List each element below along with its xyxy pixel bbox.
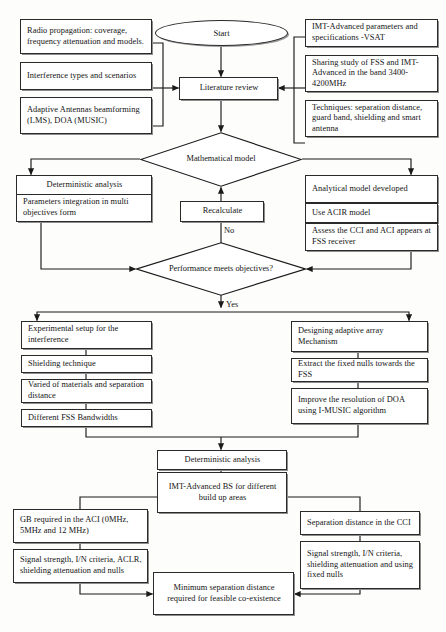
node-use-acir-label: Use ACIR model [312, 208, 432, 219]
node-assess-cci-aci-label: Assess the CCI and ACI appears at FSS re… [312, 226, 432, 247]
node-improve-resolution[interactable]: Improve the resolution of DOA using I-MU… [291, 388, 428, 424]
node-deterministic-analysis-2-label: Deterministic analysis [164, 455, 281, 466]
node-gb-required[interactable]: GB required in the ACI (0MHz, 5MHz and 1… [13, 509, 148, 543]
node-parameters-integration[interactable]: Parameters integration in multi objectiv… [16, 194, 152, 222]
node-designing-adaptive-array[interactable]: Designing adaptive array Mechanism [291, 321, 428, 352]
node-deterministic-analysis-2[interactable]: Deterministic analysis [157, 450, 287, 470]
node-signal-strength-left[interactable]: Signal strength, I/N criteria, ACLR, shi… [13, 549, 148, 583]
node-analytical-model-label: Analytical model developed [312, 184, 432, 195]
node-different-fss-bandwidths[interactable]: Different FSS Bandwidths [21, 409, 152, 427]
node-signal-strength-right[interactable]: Signal strength, I/N criteria, shielding… [300, 541, 420, 589]
node-interference-types-label: Interference types and scenarios [27, 71, 146, 82]
node-recalculate[interactable]: Recalculate [180, 201, 264, 222]
node-experimental-setup-label: Experimental setup for the interference [28, 324, 146, 345]
node-shielding-technique[interactable]: Shielding technique [21, 355, 152, 373]
node-imt-bs-areas-label: IMT-Advanced BS for different build up a… [164, 482, 281, 503]
node-signal-strength-right-label: Signal strength, I/N criteria, shielding… [307, 549, 414, 581]
node-minimum-separation-label: Minimum separation distance required for… [160, 583, 288, 604]
node-techniques[interactable]: Techniques: separation distance, guard b… [305, 100, 438, 137]
node-gb-required-label: GB required in the ACI (0MHz, 5MHz and 1… [20, 515, 142, 536]
edge-label-yes: Yes [226, 300, 238, 309]
node-varied-materials-label: Varied of materials and separation dista… [28, 380, 146, 401]
node-designing-adaptive-array-label: Designing adaptive array Mechanism [298, 326, 422, 347]
node-imt-parameters[interactable]: IMT-Advanced parameters and specificatio… [305, 19, 438, 47]
node-literature-review[interactable]: Literature review [179, 77, 278, 100]
node-deterministic-analysis-1-label: Deterministic analysis [23, 180, 146, 191]
node-separation-distance-cci[interactable]: Separation distance in the CCI [300, 511, 420, 535]
node-improve-resolution-label: Improve the resolution of DOA using I-MU… [298, 395, 422, 416]
node-imt-bs-areas[interactable]: IMT-Advanced BS for different build up a… [157, 472, 287, 513]
node-radio-propagation[interactable]: Radio propagation: coverage, frequency a… [20, 19, 152, 54]
node-start-label: Start [156, 28, 287, 38]
node-analytical-model[interactable]: Analytical model developed [305, 175, 438, 203]
node-parameters-integration-label: Parameters integration in multi objectiv… [23, 197, 146, 218]
node-performance-check[interactable]: Performance meets objectives? [136, 242, 306, 296]
node-literature-review-label: Literature review [186, 83, 272, 94]
node-adaptive-antennas[interactable]: Adaptive Antennas beamforming (LMS), DOA… [20, 97, 152, 134]
node-varied-materials[interactable]: Varied of materials and separation dista… [21, 379, 152, 403]
node-start[interactable]: Start [155, 20, 288, 46]
flowchart-canvas: Start Radio propagation: coverage, frequ… [0, 0, 446, 632]
node-shielding-technique-label: Shielding technique [28, 359, 146, 370]
node-extract-fixed-nulls[interactable]: Extract the fixed nulls towards the FSS [291, 358, 428, 382]
node-interference-types[interactable]: Interference types and scenarios [20, 62, 152, 90]
node-separation-distance-cci-label: Separation distance in the CCI [307, 518, 414, 529]
edge-label-no: No [224, 226, 234, 235]
node-mathematical-model-label: Mathematical model [140, 154, 302, 164]
node-radio-propagation-label: Radio propagation: coverage, frequency a… [27, 26, 146, 47]
node-mathematical-model[interactable]: Mathematical model [140, 132, 302, 187]
node-minimum-separation[interactable]: Minimum separation distance required for… [153, 572, 294, 615]
node-techniques-label: Techniques: separation distance, guard b… [312, 103, 432, 135]
node-sharing-study[interactable]: Sharing study of FSS and IMT-Advanced in… [305, 55, 438, 92]
node-assess-cci-aci[interactable]: Assess the CCI and ACI appears at FSS re… [305, 223, 438, 251]
node-different-fss-bandwidths-label: Different FSS Bandwidths [28, 413, 146, 424]
node-deterministic-analysis-1[interactable]: Deterministic analysis [16, 175, 152, 196]
node-adaptive-antennas-label: Adaptive Antennas beamforming (LMS), DOA… [27, 105, 146, 126]
node-performance-check-label: Performance meets objectives? [136, 264, 306, 274]
node-use-acir[interactable]: Use ACIR model [305, 203, 438, 223]
node-recalculate-label: Recalculate [187, 206, 258, 217]
node-signal-strength-left-label: Signal strength, I/N criteria, ACLR, shi… [20, 555, 142, 576]
node-imt-parameters-label: IMT-Advanced parameters and specificatio… [312, 22, 432, 43]
node-extract-fixed-nulls-label: Extract the fixed nulls towards the FSS [298, 359, 422, 380]
node-sharing-study-label: Sharing study of FSS and IMT-Advanced in… [312, 58, 432, 90]
node-experimental-setup[interactable]: Experimental setup for the interference [21, 321, 152, 349]
